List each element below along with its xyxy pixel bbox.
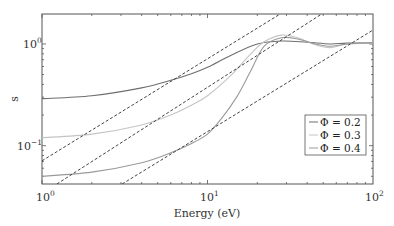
legend: Φ = 0.2 Φ = 0.3 Φ = 0.4 bbox=[305, 115, 366, 155]
y-axis-label: s bbox=[8, 96, 21, 102]
svg-text:Φ = 0.3: Φ = 0.3 bbox=[320, 129, 361, 141]
svg-text:Φ = 0.2: Φ = 0.2 bbox=[320, 116, 361, 128]
y-tick-label-1e0: 100 bbox=[23, 36, 42, 51]
x-tick-label-1e1: 101 bbox=[200, 189, 219, 204]
plot-frame bbox=[42, 14, 373, 184]
svg-text:Φ = 0.4: Φ = 0.4 bbox=[320, 142, 361, 154]
x-tick-label-1e0: 100 bbox=[36, 189, 55, 204]
y-tick-label-1e-1: 10−1 bbox=[17, 138, 42, 153]
chart-canvas: 100 10−1 100 101 102 Energy (eV) s Φ = 0… bbox=[0, 0, 394, 226]
x-axis-label: Energy (eV) bbox=[174, 207, 241, 220]
x-tick-label-1e2: 102 bbox=[365, 189, 384, 204]
